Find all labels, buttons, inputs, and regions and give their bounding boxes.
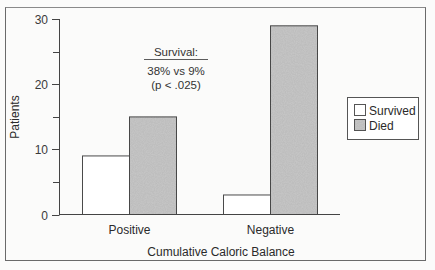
legend-label-died: Died xyxy=(369,119,394,133)
y-axis-title: Patients xyxy=(8,95,22,138)
y-tick-label: 30 xyxy=(35,13,49,27)
category-label-negative: Negative xyxy=(247,223,295,237)
annotation-line2: (p < .025) xyxy=(151,79,201,91)
legend-swatch-died xyxy=(355,120,366,131)
survival-annotation: Survival: 38% vs 9% (p < .025) xyxy=(144,46,208,91)
bar-negative-survived xyxy=(224,195,271,215)
legend-swatch-survived xyxy=(355,105,366,116)
annotation-heading: Survival: xyxy=(154,46,198,58)
category-label-positive: Positive xyxy=(108,223,150,237)
bar-positive-died xyxy=(130,117,177,215)
y-tick-label: 0 xyxy=(41,209,48,223)
x-axis-title: Cumulative Caloric Balance xyxy=(147,245,295,259)
y-axis-ticks: 0102030 xyxy=(35,13,60,223)
y-tick-label: 20 xyxy=(35,78,49,92)
bar-chart: 0102030 Patients PositiveNegative Cumula… xyxy=(0,0,435,270)
bars xyxy=(83,26,318,215)
legend-label-survived: Survived xyxy=(369,104,416,118)
bar-positive-survived xyxy=(83,156,130,215)
x-axis-category-labels: PositiveNegative xyxy=(108,223,294,237)
bar-negative-died xyxy=(271,26,318,215)
legend: SurvivedDied xyxy=(348,98,419,140)
y-tick-label: 10 xyxy=(35,143,49,157)
annotation-line1: 38% vs 9% xyxy=(147,65,205,77)
